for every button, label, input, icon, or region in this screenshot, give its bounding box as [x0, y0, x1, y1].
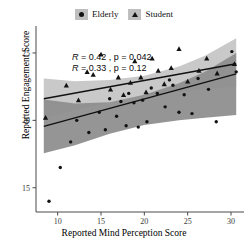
circle-marker-icon [207, 88, 210, 91]
circle-marker-icon [59, 166, 62, 169]
plot-canvas: 1015202530 152025 R = 0.42 , p = 0.042 R… [0, 0, 248, 251]
circle-marker-icon [47, 200, 50, 203]
circle-marker-icon [190, 112, 193, 115]
circle-marker-icon [132, 101, 135, 104]
circle-marker-icon [150, 86, 153, 89]
triangle-marker-icon [156, 68, 161, 73]
circle-marker-icon [196, 77, 199, 80]
x-tick-label: 10 [54, 217, 62, 226]
circle-marker-icon [156, 92, 159, 95]
circle-marker-icon [115, 115, 118, 118]
circle-marker-icon [137, 125, 140, 128]
circle-marker-icon [145, 120, 148, 123]
annotation-elderly-text: = 0.33 , p = 0.12 [79, 63, 147, 73]
circle-marker-icon [163, 105, 166, 108]
y-axis-label: Reported Engagement Score [21, 5, 31, 165]
circle-marker-icon [235, 70, 238, 73]
x-tick-label: 30 [227, 217, 235, 226]
circle-marker-icon [141, 98, 144, 101]
circle-marker-icon [98, 111, 101, 114]
circle-marker-icon [230, 50, 233, 53]
x-tick-label: 20 [140, 217, 148, 226]
annotation-elderly: R = 0.33 , p = 0.12 [72, 63, 147, 73]
scatter-plot-figure: Elderly Student 1015202530 152025 R = 0.… [0, 0, 248, 251]
triangle-marker-icon [169, 65, 174, 70]
circle-marker-icon [119, 100, 122, 103]
annotation-student-text: = 0.42 , p = 0.042 [79, 52, 152, 62]
circle-marker-icon [215, 120, 218, 123]
annotation-student: R = 0.42 , p = 0.042 [72, 52, 152, 62]
circle-marker-icon [69, 140, 72, 143]
x-axis-ticks: 1015202530 [54, 212, 235, 226]
triangle-marker-icon [176, 46, 181, 51]
circle-marker-icon [108, 97, 111, 100]
x-tick-label: 15 [97, 217, 105, 226]
triangle-marker-icon [116, 75, 121, 80]
circle-marker-icon [177, 111, 180, 114]
circle-marker-icon [87, 131, 90, 134]
x-tick-label: 25 [184, 217, 192, 226]
circle-marker-icon [124, 124, 127, 127]
circle-marker-icon [127, 92, 130, 95]
circle-marker-icon [104, 128, 107, 131]
circle-marker-icon [168, 78, 171, 81]
circle-marker-icon [183, 93, 186, 96]
x-axis-label: Reported Mind Perception Score [0, 228, 248, 238]
circle-marker-icon [171, 84, 174, 87]
circle-marker-icon [75, 119, 78, 122]
y-tick-label: 15 [22, 184, 30, 193]
